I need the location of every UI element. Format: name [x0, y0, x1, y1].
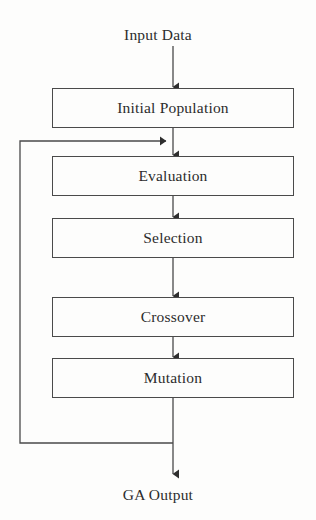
node-evaluation-label: Evaluation	[138, 168, 207, 184]
node-selection-label: Selection	[143, 230, 202, 246]
ga-output-label: GA Output	[0, 487, 316, 503]
node-initial-population-label: Initial Population	[117, 100, 229, 116]
node-crossover-label: Crossover	[141, 309, 206, 325]
input-data-label: Input Data	[0, 27, 316, 43]
node-initial-population[interactable]: Initial Population	[52, 88, 294, 128]
node-selection[interactable]: Selection	[52, 218, 294, 258]
node-mutation[interactable]: Mutation	[52, 358, 294, 398]
node-evaluation[interactable]: Evaluation	[52, 156, 294, 196]
node-mutation-label: Mutation	[144, 370, 202, 386]
ga-flowchart: Input Data Initial Population Evaluation…	[0, 0, 316, 520]
node-crossover[interactable]: Crossover	[52, 297, 294, 337]
flowchart-connectors	[0, 0, 316, 520]
